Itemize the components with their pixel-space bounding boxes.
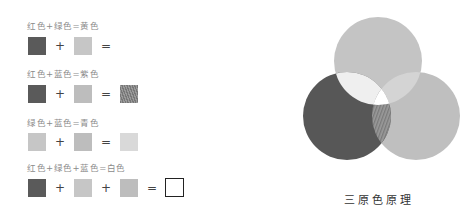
diagram-caption: 三原色原理 [344,191,414,207]
primary-colors-venn-diagram [0,0,476,220]
